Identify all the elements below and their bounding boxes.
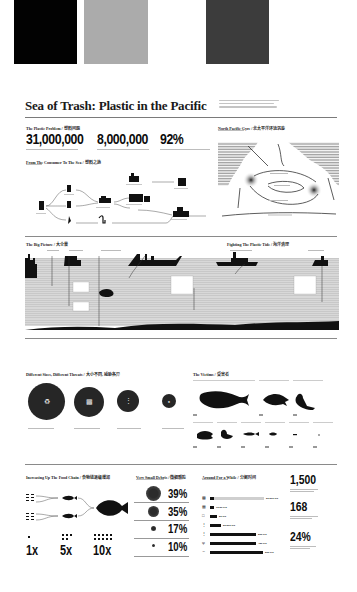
food-chain-heading: Increasing Up The Food Chain / 食物链逐级增加	[26, 474, 110, 480]
meso-debris-icon: ▩	[74, 387, 104, 417]
north-america-landmass	[288, 142, 339, 186]
debris-dot-tiny	[152, 544, 155, 547]
bar-row-3: ⋮ 50-200 yrs	[202, 521, 292, 530]
fish-icon	[243, 432, 259, 436]
title-note	[219, 100, 279, 110]
big-picture-scene	[25, 246, 339, 330]
macro-debris-icon: ♻	[28, 383, 65, 420]
victims-grid	[193, 380, 339, 462]
different-sizes-heading: Different Sizes, Different Threats / 大小不…	[26, 371, 120, 377]
bar-row-5: ψ 450 yrs	[202, 539, 292, 548]
pct-39: 39%	[168, 487, 187, 501]
turtle-icon	[197, 431, 213, 440]
infographic-poster: Sea of Trash: Plastic in the Pacific The…	[22, 92, 339, 582]
poster-title: Sea of Trash: Plastic in the Pacific	[25, 98, 207, 114]
food-chain-diagram	[26, 488, 128, 532]
decomposition-bar-chart: ▩ 20-200 yrs ▦ 10-20 yrs □ 50 yrs ⋮ 50-2…	[202, 494, 292, 557]
fishing-trawler	[128, 254, 182, 266]
debris-cluster	[99, 289, 114, 297]
pct-10: 10%	[168, 540, 187, 554]
medium-fish-icon	[62, 496, 77, 501]
stat-caption	[26, 149, 78, 150]
stat-31m: 31,000,000	[26, 130, 83, 147]
micro-organism-icon	[318, 434, 319, 435]
multiplier-1x: 1x	[26, 542, 38, 558]
pct-35: 35%	[168, 505, 187, 519]
micro-debris-icon: ⋮	[117, 390, 139, 412]
small-boat	[64, 256, 81, 266]
multiplier-10x: 10x	[93, 542, 111, 558]
bar-row-2: □ 50 yrs	[202, 512, 292, 521]
sea-floor	[25, 321, 339, 330]
tuna-icon	[96, 500, 128, 516]
seabird-icon	[221, 430, 233, 439]
swatch-black	[14, 0, 77, 64]
city-skyline	[25, 254, 37, 278]
dot-scale-5	[62, 534, 72, 540]
nano-debris-icon: ●	[162, 394, 176, 408]
eastern-garbage-patch	[306, 182, 322, 198]
bar-row-6: ∼ 500 yrs	[202, 548, 292, 557]
title-divider	[25, 117, 337, 118]
bottle-icon	[39, 201, 44, 210]
bar-row-0: ▩ 20-200 yrs	[202, 494, 292, 503]
stat-caption	[97, 149, 149, 150]
stat-1500: 1,500	[290, 472, 316, 487]
debris-dot-small	[151, 526, 156, 531]
stat-caption	[160, 149, 210, 150]
swatch-gray	[84, 0, 148, 64]
medium-fish-icon	[62, 514, 77, 519]
dot-scale-10	[94, 534, 112, 540]
whale-icon	[200, 391, 250, 408]
victims-heading: The Victims / 受害者	[193, 371, 229, 377]
pct-17: 17%	[168, 522, 187, 536]
consumer-flow-diagram	[26, 168, 212, 226]
debris-dot-large	[146, 486, 161, 501]
cleanup-ship	[216, 252, 258, 266]
research-boat	[312, 256, 328, 266]
swatch-dark-gray	[206, 0, 269, 64]
plankton-icon	[293, 434, 297, 435]
bar-row-1: ▦ 10-20 yrs	[202, 503, 292, 512]
small-fish-icon	[269, 433, 277, 436]
stat-168: 168	[290, 499, 307, 514]
stat-92pct: 92%	[160, 130, 183, 147]
stat-24pct: 24%	[290, 529, 311, 544]
sea-lion-icon	[296, 394, 316, 410]
dot-scale-1	[28, 536, 30, 538]
debris-dot-medium	[148, 506, 159, 517]
multiplier-5x: 5x	[60, 542, 72, 558]
stat-8m: 8,000,000	[97, 130, 148, 147]
bar-row-4: ⋮ 200 yrs	[202, 530, 292, 539]
gyre-map	[218, 138, 339, 218]
dolphin-icon	[263, 394, 289, 406]
